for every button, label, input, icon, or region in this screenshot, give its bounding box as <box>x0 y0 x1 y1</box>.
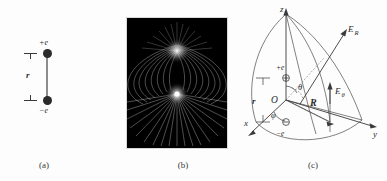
panel-b-fieldlines <box>127 0 240 181</box>
origin-label: O <box>271 95 278 105</box>
dipole-rod <box>46 54 48 100</box>
spherical-coordinate-diagram: z x y +e −e r O θ φ R E R E θ <box>240 0 387 160</box>
field-Etheta-label-base: E <box>334 86 341 96</box>
field-Etheta-label-sub: θ <box>342 91 346 98</box>
dipole-field-line-image <box>127 18 227 148</box>
dipole-figure: r +e −e <box>0 0 387 181</box>
axis-arrowheads <box>248 8 377 136</box>
axis-z-label: z <box>279 4 284 14</box>
phi-angle-label: φ <box>271 110 276 120</box>
meridian-arc-middle <box>286 14 316 134</box>
negative-charge-dot <box>43 96 52 105</box>
radial-vector-label: R <box>309 97 317 108</box>
field-ER-label-base: E <box>347 24 354 34</box>
axis-x-label: x <box>243 118 248 128</box>
negative-charge-label-c: −e <box>276 129 285 138</box>
field-Etheta-label: E θ <box>334 86 346 98</box>
equator-arc <box>256 120 362 140</box>
caption-a: (a) <box>24 160 64 170</box>
panel-c-spherical-coords: z x y +e −e r O θ φ R E R E θ <box>240 0 387 181</box>
field-ER-label: E R <box>347 24 359 36</box>
negative-charge-label: −e <box>39 106 48 115</box>
positive-charge-dot <box>43 49 52 58</box>
positive-charge-label-c: +e <box>276 63 285 72</box>
dimension-stem-bottom <box>30 95 31 101</box>
positive-charge-label: +e <box>39 38 48 47</box>
axis-x-line <box>252 100 286 132</box>
theta-angle-label: θ <box>298 82 302 92</box>
field-ER-label-sub: R <box>354 29 359 36</box>
axis-y-label: y <box>372 129 377 139</box>
dimension-stem-top <box>30 53 31 59</box>
caption-b: (b) <box>163 160 203 170</box>
panel-a-dipole: r +e −e <box>0 0 127 181</box>
caption-c: (c) <box>293 160 333 170</box>
separation-label-r-c: r <box>252 96 256 106</box>
separation-label-r: r <box>26 70 30 80</box>
